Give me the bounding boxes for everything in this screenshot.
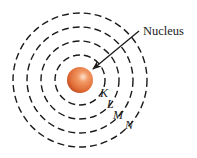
- nucleus-label: Nucleus: [143, 24, 184, 38]
- nucleus: [67, 67, 93, 93]
- nucleus-pointer-arrow: [93, 31, 139, 69]
- shell-label-n: N: [124, 118, 134, 132]
- atom-shell-diagram: Nucleus K L M N: [0, 0, 197, 158]
- shell-label-m: M: [112, 108, 124, 122]
